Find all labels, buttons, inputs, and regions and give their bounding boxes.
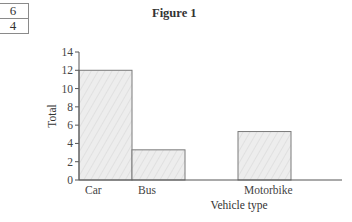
y-axis-ticks: 02468101214 <box>62 46 80 186</box>
x-tick-label: Car <box>85 184 102 196</box>
y-axis-title: Total <box>46 104 58 127</box>
y-tick-label: 6 <box>67 119 73 131</box>
bar-bus <box>132 150 185 180</box>
x-axis-labels: CarBusMotorbike <box>85 184 293 196</box>
x-axis-title: Vehicle type <box>210 199 267 212</box>
y-tick-label: 2 <box>67 156 73 168</box>
bar-motorbike <box>238 132 291 180</box>
bar-chart: 02468101214 CarBusMotorbike Vehicle type… <box>0 0 352 222</box>
y-tick-label: 12 <box>62 64 74 76</box>
y-tick-label: 4 <box>67 137 73 149</box>
y-tick-label: 8 <box>67 101 73 113</box>
x-tick-label: Bus <box>138 184 156 196</box>
y-tick-label: 14 <box>62 46 74 58</box>
y-tick-label: 10 <box>62 83 74 95</box>
bar-car <box>79 70 132 180</box>
bars <box>79 70 291 180</box>
x-tick-label: Motorbike <box>244 184 293 196</box>
y-tick-label: 0 <box>67 174 73 186</box>
